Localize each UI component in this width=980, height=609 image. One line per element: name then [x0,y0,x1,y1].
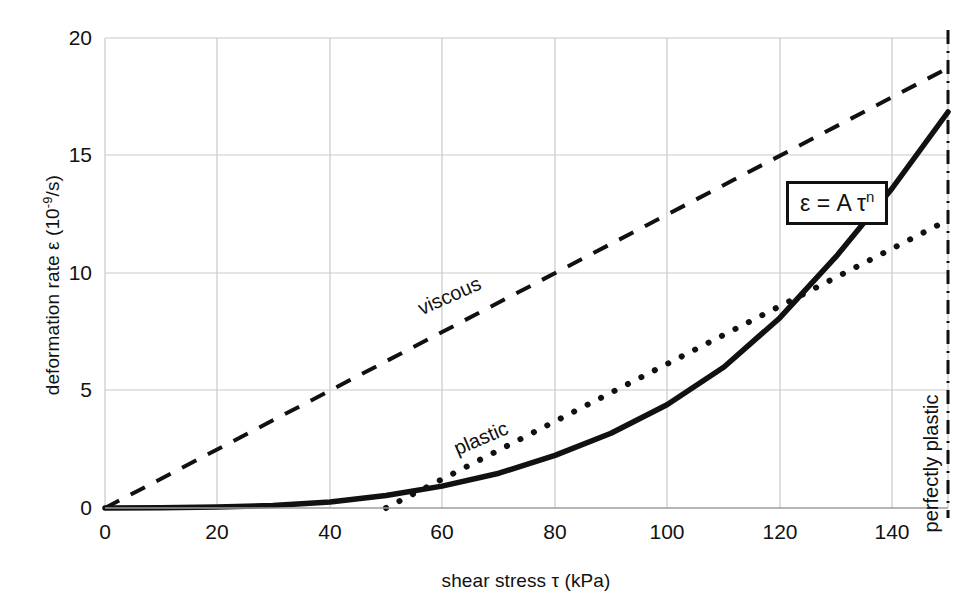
deformation-rate-chart: deformation rate ε (10-9/s) 20 15 10 5 0… [0,0,980,609]
equation-exponent: n [866,188,874,205]
equation-lhs: ε = A τ [800,190,866,216]
series-viscous-line [105,68,948,508]
equation-annotation-box: ε = A τn [786,181,888,225]
plot-area [0,0,980,609]
series-power-law-curve [105,112,948,508]
annotation-perfectly-plastic: perfectly plastic [920,369,943,559]
